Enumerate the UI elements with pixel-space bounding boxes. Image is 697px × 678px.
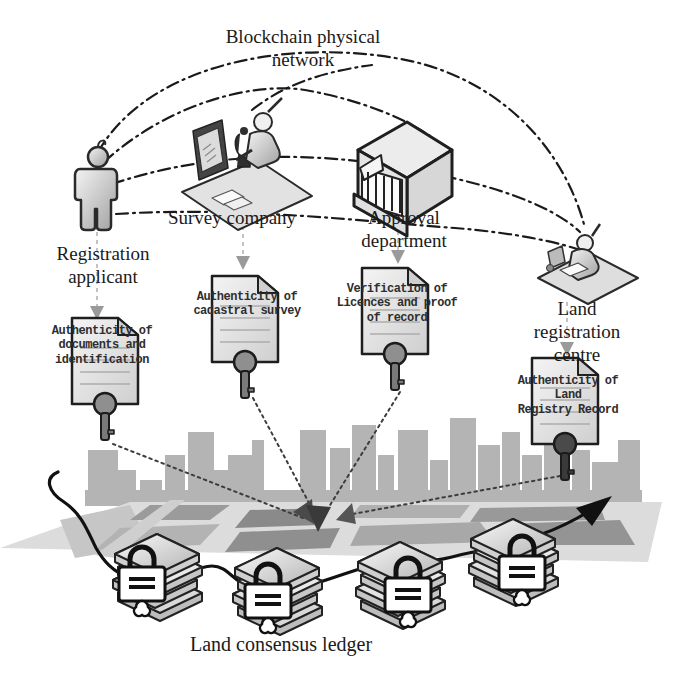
diagram-title: Blockchain physical network	[226, 25, 381, 71]
document-label-land-registry-record: Authenticity of Land Registry Record	[504, 374, 633, 417]
actor-to-document-arrows	[90, 202, 574, 356]
network-curve	[98, 52, 585, 228]
down-arrow-icon	[236, 256, 250, 270]
document-label-licences-proof: Verification of Licences and proof of re…	[337, 282, 458, 325]
registrar-desk-icon	[538, 224, 638, 304]
blockchain-land-registry-diagram: Blockchain physical network Registration…	[0, 0, 697, 678]
person-icon	[75, 141, 117, 230]
document-label-cadastral-survey: Authenticity of cadastral survey	[193, 290, 300, 319]
actor-label-survey-company: Survey company	[168, 206, 296, 229]
actor-label-land-registration-centre: Land registration centre	[517, 297, 637, 367]
document-label-authenticity-documents: Authenticity of documents and identifica…	[52, 324, 153, 367]
ledger-label: Land consensus ledger	[190, 632, 372, 656]
network-curve	[252, 65, 372, 110]
actor-label-registration-applicant: Registration applicant	[57, 242, 150, 288]
actor-label-approval-department: Approval department	[361, 206, 446, 252]
